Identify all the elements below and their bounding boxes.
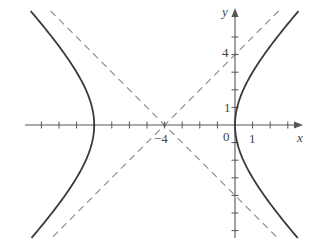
x-tick-label-neg4: −4 (154, 131, 168, 146)
x-axis-label: x (296, 130, 303, 145)
coordinate-axes (25, 8, 303, 238)
plot-canvas: x y 0 −4 1 1 4 (0, 0, 312, 251)
y-axis-label: y (220, 4, 228, 19)
origin-label: 0 (223, 129, 230, 144)
x-tick-label-1: 1 (249, 131, 256, 146)
y-tick-label-1: 1 (224, 100, 231, 115)
y-axis-arrow-icon (232, 8, 239, 17)
y-tick-label-4: 4 (222, 45, 229, 60)
hyperbola-diagram: x y 0 −4 1 1 4 (0, 0, 312, 251)
x-axis-arrow-icon (294, 122, 303, 129)
